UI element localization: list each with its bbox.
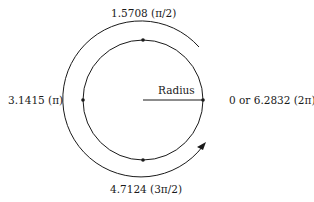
radius-label: Radius [158, 84, 195, 96]
angle-label-top: 1.5708 (π/2) [111, 7, 176, 19]
angle-label-bottom: 4.7124 (3π/2) [110, 183, 182, 195]
curved-arrow-icon [197, 142, 206, 150]
angle-label-right: 0 or 6.2832 (2π) [229, 94, 314, 106]
point-3pi-over-2 [141, 158, 145, 162]
point-pi [81, 98, 85, 102]
point-0 [201, 98, 205, 102]
angle-label-left: 3.1415 (π) [8, 94, 63, 106]
point-pi-over-2 [141, 38, 145, 42]
radian-circle-diagram: Radius 0 or 6.2832 (2π) 1.5708 (π/2) 3.1… [0, 0, 314, 202]
